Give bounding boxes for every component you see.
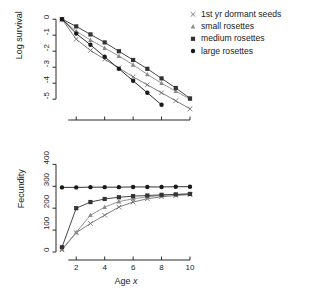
- series-line: [62, 19, 190, 99]
- circle-marker: [191, 49, 195, 53]
- series-line: [62, 187, 190, 188]
- circle-marker: [102, 55, 106, 59]
- series-markers: [60, 192, 193, 252]
- y-tick-label: 400: [42, 150, 51, 164]
- y-tick-label: -2: [42, 44, 51, 52]
- y-tick-label: -4: [42, 76, 51, 84]
- y-tick-label: 0: [42, 14, 51, 19]
- square-marker: [117, 195, 121, 199]
- x-tick-label: 2: [74, 263, 79, 272]
- y-tick-label: 0: [42, 247, 51, 252]
- cross-marker: [88, 48, 93, 53]
- triangle-marker: [159, 81, 164, 85]
- triangle-marker: [117, 54, 122, 58]
- circle-marker: [145, 185, 149, 189]
- legend-label: medium rosettes: [201, 33, 265, 43]
- triangle-marker: [88, 213, 93, 217]
- x-tick-label: 4: [102, 263, 107, 272]
- triangle-marker: [131, 62, 136, 66]
- series-line: [62, 195, 190, 250]
- square-marker: [103, 197, 107, 201]
- cross-marker: [188, 107, 193, 112]
- y-axis-label: Fecundity: [16, 169, 26, 209]
- cross-marker: [191, 12, 196, 17]
- square-marker: [188, 192, 192, 196]
- cross-marker: [159, 91, 164, 96]
- square-marker: [159, 76, 163, 80]
- circle-marker: [159, 103, 163, 107]
- legend: 1st yr dormant seedssmall rosettesmedium…: [191, 9, 282, 56]
- circle-marker: [74, 31, 78, 35]
- square-marker: [74, 24, 78, 28]
- series-line: [62, 194, 190, 249]
- square-marker: [145, 67, 149, 71]
- chart-canvas: 0-1-2-3-4-5Log survival0100200300400Fecu…: [0, 0, 313, 290]
- square-marker: [191, 37, 195, 41]
- square-marker: [60, 245, 64, 249]
- cross-marker: [117, 205, 122, 210]
- circle-marker: [102, 185, 106, 189]
- circle-marker: [159, 185, 163, 189]
- circle-marker: [74, 185, 78, 189]
- series-line: [62, 194, 190, 247]
- circle-marker: [131, 185, 135, 189]
- circle-marker: [188, 185, 192, 189]
- x-tick-label: 6: [131, 263, 136, 272]
- circle-marker: [117, 67, 121, 71]
- x-tick-label: 10: [186, 263, 195, 272]
- x-axis-label: Age x: [114, 276, 138, 286]
- panel-top: 0-1-2-3-4-5Log survival: [14, 11, 192, 120]
- square-marker: [117, 49, 121, 53]
- circle-marker: [60, 17, 64, 21]
- series-line: [62, 19, 190, 98]
- y-tick-label: 100: [42, 216, 51, 230]
- series-markers: [60, 17, 193, 111]
- square-marker: [131, 194, 135, 198]
- y-tick-label: 200: [42, 194, 51, 208]
- square-marker: [88, 200, 92, 204]
- figure-container: 0-1-2-3-4-5Log survival0100200300400Fecu…: [0, 0, 313, 290]
- triangle-marker: [88, 38, 93, 42]
- square-marker: [174, 192, 178, 196]
- square-marker: [145, 193, 149, 197]
- cross-marker: [145, 83, 150, 88]
- circle-marker: [88, 43, 92, 47]
- circle-marker: [60, 185, 64, 189]
- square-marker: [188, 96, 192, 100]
- panel-bottom: 0100200300400Fecundity246810Age x: [16, 150, 195, 286]
- x-tick-label: 8: [159, 263, 164, 272]
- y-tick-label: 300: [42, 172, 51, 186]
- legend-label: 1st yr dormant seeds: [201, 9, 281, 19]
- triangle-marker: [145, 72, 150, 76]
- circle-marker: [174, 185, 178, 189]
- y-tick-label: -5: [42, 92, 51, 100]
- square-marker: [131, 58, 135, 62]
- square-marker: [88, 32, 92, 36]
- circle-marker: [88, 185, 92, 189]
- y-tick-label: -3: [42, 60, 51, 68]
- cross-marker: [74, 37, 79, 42]
- square-marker: [74, 206, 78, 210]
- cross-marker: [102, 213, 107, 218]
- triangle-marker: [102, 46, 107, 50]
- y-tick-label: -1: [42, 28, 51, 36]
- legend-label: large rosettes: [201, 46, 253, 56]
- triangle-marker: [191, 24, 196, 28]
- circle-marker: [131, 79, 135, 83]
- circle-marker: [117, 185, 121, 189]
- legend-label: small rosettes: [201, 21, 254, 31]
- square-marker: [103, 40, 107, 44]
- square-marker: [174, 86, 178, 90]
- series-markers: [60, 17, 192, 100]
- square-marker: [159, 193, 163, 197]
- cross-marker: [131, 75, 136, 80]
- circle-marker: [145, 91, 149, 95]
- series-markers: [60, 17, 193, 101]
- y-axis-label: Log survival: [14, 11, 24, 59]
- cross-marker: [88, 221, 93, 226]
- cross-marker: [173, 99, 178, 104]
- series-line: [62, 19, 190, 109]
